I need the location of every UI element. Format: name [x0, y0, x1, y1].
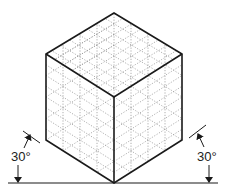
left-upper-arrow [24, 135, 30, 148]
right-upper-arrow [198, 134, 204, 147]
left-angle-label: 30° [11, 150, 31, 163]
right-angle-label: 30° [197, 150, 217, 163]
right-face-grid [114, 0, 182, 196]
cube-outline [46, 13, 182, 183]
right-extension-tick [189, 125, 206, 138]
diagram-canvas [0, 0, 228, 196]
left-extension-tick [23, 131, 40, 143]
left-face-grid [46, 0, 114, 196]
isometric-cube-diagram: 30° 30° [0, 0, 228, 196]
